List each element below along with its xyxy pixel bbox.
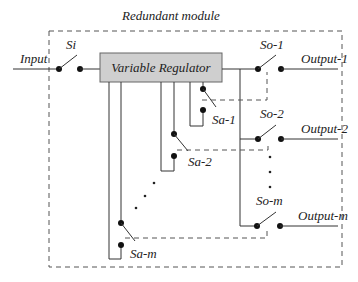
so-1-label: So-1 — [260, 37, 284, 52]
so-m-label: So-m — [256, 193, 283, 208]
output-2-label: Output-2 — [301, 121, 348, 136]
output-switch-1: So-1 Output-1 — [255, 37, 348, 72]
so-2-label: So-2 — [260, 106, 284, 121]
output-1-label: Output-1 — [301, 51, 348, 66]
input-section: Input Si — [13, 37, 100, 72]
regulator-label: Variable Regulator — [111, 60, 211, 75]
input-label: Input — [19, 51, 48, 66]
variable-regulator: Variable Regulator — [100, 53, 222, 82]
sa-1-label: Sa-1 — [212, 112, 236, 127]
sa-2-label: Sa-2 — [188, 154, 212, 169]
output-bus — [222, 69, 258, 226]
output-m-label: Output-m — [298, 208, 348, 223]
module-title: Redundant module — [121, 8, 220, 23]
output-switch-m: So-m Output-m — [254, 193, 348, 229]
si-label: Si — [66, 37, 77, 52]
aux-switch-m: Sa-m — [109, 82, 267, 261]
sa-m-label: Sa-m — [130, 246, 157, 261]
ellipsis-outputs — [269, 156, 272, 189]
ellipsis-aux — [135, 182, 156, 210]
output-switch-2: So-2 Output-2 — [255, 106, 348, 142]
redundant-module-diagram: Redundant module Input Si Variable Regul… — [0, 0, 358, 282]
si-switch-blade — [59, 55, 77, 69]
